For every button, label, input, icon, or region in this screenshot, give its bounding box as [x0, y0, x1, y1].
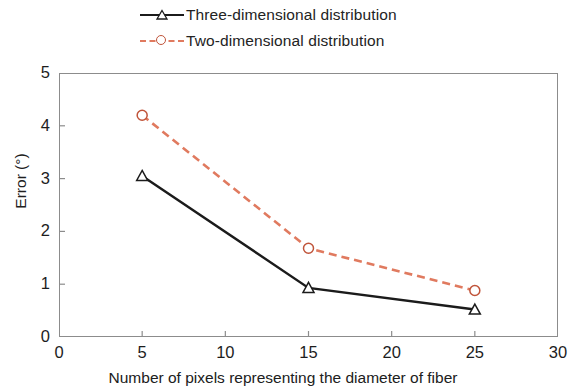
- legend-label-two-dimensional: Two-dimensional distribution: [184, 32, 384, 50]
- plot-area: [59, 73, 558, 337]
- legend-circle-icon: [156, 35, 166, 45]
- legend-key-solid-triangle: [140, 6, 184, 24]
- x-axis-title: Number of pixels representing the diamet…: [0, 369, 566, 387]
- x-tick-label: 5: [122, 344, 162, 361]
- legend-triangle-icon: [140, 6, 184, 24]
- y-tick-label: 0: [22, 328, 50, 345]
- x-tick-label: 30: [538, 344, 572, 361]
- legend-label-three-dimensional: Three-dimensional distribution: [184, 6, 397, 24]
- chart-legend: Three-dimensional distribution Two-dimen…: [140, 2, 440, 54]
- x-tick-label: 25: [455, 344, 495, 361]
- y-tick-label: 5: [22, 64, 50, 81]
- x-tick-label: 0: [39, 344, 79, 361]
- y-tick-label: 4: [22, 117, 50, 134]
- legend-item-three-dimensional: Three-dimensional distribution: [140, 2, 440, 28]
- y-tick-label: 1: [22, 275, 50, 292]
- legend-key-dashed-circle: [140, 32, 184, 50]
- x-tick-label: 15: [289, 344, 329, 361]
- x-tick-label: 20: [372, 344, 412, 361]
- y-axis-title: Error (°): [12, 136, 30, 226]
- x-tick-label: 10: [205, 344, 245, 361]
- legend-item-two-dimensional: Two-dimensional distribution: [140, 28, 440, 54]
